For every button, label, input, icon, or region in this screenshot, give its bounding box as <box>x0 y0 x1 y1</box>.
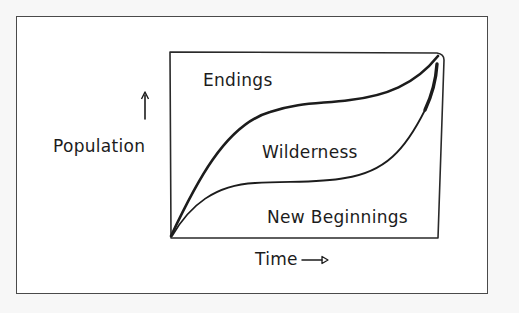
label-endings: Endings <box>203 70 273 90</box>
y-axis-label: Population <box>53 136 145 156</box>
s-curve-diagram: Endings Wilderness New Beginnings Popula… <box>0 0 519 313</box>
label-new-beginnings: New Beginnings <box>267 207 408 227</box>
up-arrow-icon <box>142 92 149 119</box>
x-axis-label: Time <box>254 249 298 269</box>
label-wilderness: Wilderness <box>262 142 358 162</box>
right-arrow-icon <box>302 257 328 264</box>
lower-s-curve-end <box>425 64 437 110</box>
